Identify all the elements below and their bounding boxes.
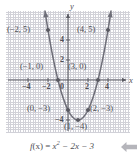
y-axis-label: y bbox=[70, 2, 74, 11]
y-tick-label-2: 2 bbox=[60, 56, 64, 64]
y-tick-label-neg4: −4 bbox=[55, 116, 64, 124]
point-label-4-5: (4, 5) bbox=[77, 25, 95, 34]
point-label-3-0: (3, 0) bbox=[68, 62, 86, 71]
pointer-arrow-icon bbox=[121, 141, 137, 153]
x-axis-label: x bbox=[129, 76, 133, 85]
point-label-neg2-5: (−2, 5) bbox=[7, 25, 30, 34]
x-tick-label-4: 4 bbox=[105, 83, 109, 91]
graph-figure: x y −4 −2 0 2 4 4 2 −4 (−2, 5) (4, 5) (−… bbox=[0, 0, 140, 159]
caption-exponent: 2 bbox=[57, 139, 60, 146]
caption-rest: − 2x − 3 bbox=[62, 141, 94, 151]
x-tick-label-0: 0 bbox=[60, 83, 64, 91]
point--2-5 bbox=[46, 28, 50, 32]
point-3-0 bbox=[96, 78, 100, 82]
point-0--3 bbox=[66, 108, 70, 112]
point-label-0-neg3: (0, −3) bbox=[27, 104, 50, 113]
x-tick-label-neg4: −4 bbox=[22, 83, 31, 91]
point-4-5 bbox=[106, 28, 110, 32]
point-label-2-neg3: (2, −3) bbox=[90, 104, 113, 113]
curve-arrow-tips bbox=[43, 11, 112, 17]
point-label-1-neg4: (1, −4) bbox=[64, 122, 87, 131]
caption-of-x: (x) = bbox=[33, 141, 51, 151]
point-label-neg1-0: (−1, 0) bbox=[20, 62, 43, 71]
y-tick-label-4: 4 bbox=[60, 36, 64, 44]
x-tick-label-neg2: −2 bbox=[42, 83, 51, 91]
function-caption: f(x) = x2 − 2x − 3 bbox=[0, 139, 124, 151]
x-tick-label-2: 2 bbox=[85, 83, 89, 91]
